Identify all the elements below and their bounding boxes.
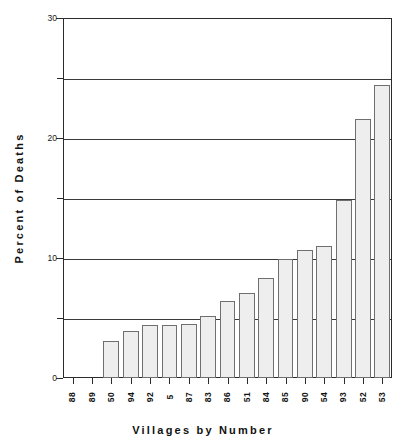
x-axis-tick-label-slot: 94: [121, 386, 141, 410]
bar: [162, 325, 178, 378]
x-axis-tick-label-slot: 90: [295, 386, 315, 410]
y-axis-title: Percent of Deaths: [13, 133, 25, 264]
x-axis-tick-label-slot: 85: [276, 386, 296, 410]
x-axis-tick: [344, 378, 345, 384]
x-axis-tick-label-slot: 54: [314, 386, 334, 410]
bar: [142, 325, 158, 378]
x-axis-tick-label: 86: [223, 392, 233, 402]
x-axis-tick-label-slot: 84: [256, 386, 276, 410]
bar: [220, 301, 236, 378]
x-axis-ticks: [63, 378, 392, 385]
bar: [297, 250, 313, 378]
x-axis-tick-label-slot: 50: [101, 386, 121, 410]
x-axis-tick-label: 87: [184, 392, 194, 402]
x-axis-tick-label: 90: [300, 392, 310, 402]
x-axis-tick-label: 85: [281, 392, 291, 402]
x-axis-tick-label-slot: 88: [63, 386, 83, 410]
x-axis-tick-label-slot: 86: [218, 386, 238, 410]
x-axis-tick-label: 93: [339, 392, 349, 402]
x-axis-tick-label: 52: [358, 392, 368, 402]
x-axis-tick-label: 83: [203, 392, 213, 402]
bar: [374, 85, 390, 378]
x-axis-tick-label: 5: [164, 394, 174, 399]
bar: [123, 331, 139, 378]
x-axis-tick: [150, 378, 151, 384]
y-axis-tick-label: 20: [27, 134, 57, 143]
y-axis-tick-label: 10: [27, 254, 57, 263]
x-axis-tick: [305, 378, 306, 384]
x-axis-tick-label: 84: [261, 392, 271, 402]
x-axis-tick-label-slot: 93: [334, 386, 354, 410]
bar-series: [63, 18, 392, 378]
x-axis-tick-label-slot: 89: [82, 386, 102, 410]
x-axis-tick-label: 50: [106, 392, 116, 402]
x-axis-tick-label: 53: [377, 392, 387, 402]
x-axis-tick-label-slot: 53: [372, 386, 392, 410]
x-axis-tick: [228, 378, 229, 384]
x-axis-tick: [169, 378, 170, 384]
x-axis-tick-label: 54: [319, 392, 329, 402]
x-axis-tick-label: 51: [242, 392, 252, 402]
x-axis-tick-label: 94: [126, 392, 136, 402]
bar: [316, 246, 332, 378]
x-axis-title: Villages by Number: [0, 424, 406, 436]
x-axis-tick: [73, 378, 74, 384]
bar: [336, 200, 352, 378]
y-axis-tick-label: 0: [27, 374, 57, 383]
x-axis-tick: [286, 378, 287, 384]
y-axis-tick: [56, 138, 63, 139]
x-axis-tick: [111, 378, 112, 384]
bar: [103, 341, 119, 378]
x-axis-tick: [247, 378, 248, 384]
x-axis-tick: [324, 378, 325, 384]
x-axis-tick: [131, 378, 132, 384]
y-axis-title-container: Percent of Deaths: [4, 0, 34, 396]
x-axis-tick-label-slot: 52: [353, 386, 373, 410]
bar: [278, 259, 294, 378]
y-axis-tick: [56, 18, 63, 19]
bar-chart-figure: Percent of Deaths 3020100 88895094925878…: [0, 0, 406, 445]
bar: [200, 316, 216, 378]
x-axis-tick: [382, 378, 383, 384]
x-axis-tick: [266, 378, 267, 384]
x-axis-tick: [92, 378, 93, 384]
x-axis-tick-label-slot: 51: [237, 386, 257, 410]
y-axis-tick: [56, 258, 63, 259]
x-axis-tick-label-slot: 87: [179, 386, 199, 410]
x-axis-tick-label-slot: 92: [140, 386, 160, 410]
x-axis-tick-label-slot: 5: [159, 386, 179, 410]
x-axis-tick-label-slot: 83: [198, 386, 218, 410]
x-axis-tick-label: 92: [145, 392, 155, 402]
x-axis-tick-label: 89: [87, 392, 97, 402]
x-axis-tick: [189, 378, 190, 384]
x-axis-tick-labels: 888950949258783865184859054935253: [63, 386, 392, 412]
y-axis-tick: [56, 378, 63, 379]
y-axis-tick-label: 30: [27, 14, 57, 23]
bar: [258, 278, 274, 378]
bar: [355, 119, 371, 378]
bar: [239, 293, 255, 378]
x-axis-tick-label: 88: [68, 392, 78, 402]
x-axis-tick: [208, 378, 209, 384]
bar: [181, 324, 197, 378]
x-axis-tick: [363, 378, 364, 384]
